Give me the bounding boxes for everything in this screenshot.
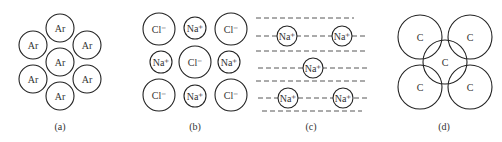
atom-label: Na⁺ — [187, 23, 204, 34]
atom-label: Cl⁻ — [152, 24, 166, 35]
caption-a: (a) — [54, 121, 65, 133]
atom-label: Na⁺ — [187, 91, 204, 102]
caption-c: (c) — [305, 121, 316, 133]
panel-d-carbon: CCCCC — [398, 15, 492, 109]
atom-label: Ar — [55, 23, 66, 34]
atom-label: Na⁺ — [335, 93, 352, 104]
figure: ArArArArArArAr Cl⁻Na⁺Cl⁻Na⁺Cl⁻Na⁺Cl⁻Na⁺C… — [0, 0, 502, 142]
atom-label: Na⁺ — [153, 57, 170, 68]
atom-label: C — [417, 32, 424, 43]
atom-label: Na⁺ — [280, 93, 297, 104]
panel-a-argon: ArArArArArArAr — [19, 14, 101, 110]
atom-label: Na⁺ — [279, 31, 296, 42]
atom-label: Ar — [28, 40, 39, 51]
atom-label: Ar — [82, 40, 93, 51]
panel-b-sodium-chloride: Cl⁻Na⁺Cl⁻Na⁺Cl⁻Na⁺Cl⁻Na⁺Cl⁻ — [143, 13, 247, 111]
atom-label: Ar — [55, 57, 66, 68]
atom-label: Cl⁻ — [188, 57, 202, 68]
atom-label: C — [442, 57, 449, 68]
panel-c-sodium-metal: Na⁺Na⁺Na⁺Na⁺Na⁺ — [256, 18, 368, 111]
atom-label: C — [467, 82, 474, 93]
atom-label: Ar — [28, 74, 39, 85]
caption-d: (d) — [438, 121, 450, 133]
atom-label: C — [417, 82, 424, 93]
caption-b: (b) — [189, 121, 201, 133]
atomic-structure-diagram: ArArArArArArAr Cl⁻Na⁺Cl⁻Na⁺Cl⁻Na⁺Cl⁻Na⁺C… — [0, 0, 502, 142]
atom-label: Ar — [55, 91, 66, 102]
atom-label: Cl⁻ — [224, 24, 238, 35]
atom-label: Na⁺ — [221, 57, 238, 68]
atom-label: Cl⁻ — [152, 90, 166, 101]
atom-label: Cl⁻ — [224, 90, 238, 101]
atom-label: Ar — [82, 74, 93, 85]
atom-label: Na⁺ — [334, 31, 351, 42]
atom-label: C — [467, 32, 474, 43]
atom-label: Na⁺ — [305, 63, 322, 74]
